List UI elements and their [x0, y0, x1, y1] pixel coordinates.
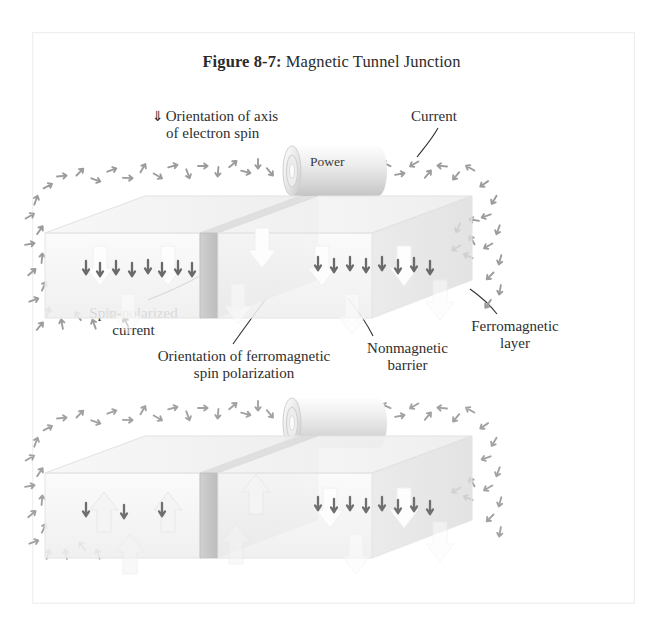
diagram-antiparallel-state	[0, 388, 663, 588]
figure-page: Figure 8-7: Magnetic Tunnel Junction ⇓Or…	[0, 0, 663, 640]
power-source-label-top: Power	[310, 154, 345, 170]
diagram-parallel-state: Power	[0, 128, 663, 378]
